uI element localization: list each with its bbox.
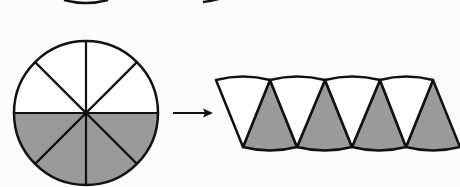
rearranged-sectors [216,77,460,151]
cropped-arc-left [64,0,108,3]
divided-circle [14,41,158,185]
right-arrow-icon [173,109,213,118]
circle-area-diagram [0,0,460,187]
circle-center-point [84,111,89,116]
cropped-top-shapes [64,0,222,3]
cropped-arc-right [203,0,222,2]
